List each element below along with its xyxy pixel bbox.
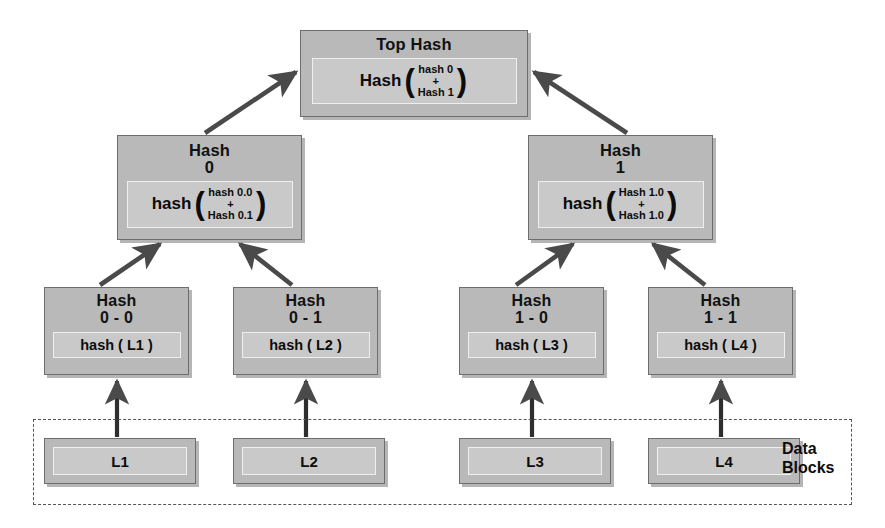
data-block-l3-label: L3	[468, 447, 602, 475]
node-hash-0-0-title: Hash 0 - 0	[97, 293, 137, 327]
node-hash-0-0[interactable]: Hash 0 - 0 hash ( L1 )	[44, 287, 189, 375]
node-hash-0-title: Hash 0	[189, 142, 230, 177]
expr-close-paren: )	[457, 69, 467, 94]
expr-close-paren: )	[667, 192, 677, 217]
edge-hash01-to-hash0	[240, 244, 292, 285]
expr-operand-b: Hash 1	[418, 87, 454, 98]
expr-open-paren: (	[194, 192, 204, 217]
node-hash-1-0-expression: hash ( L3 )	[468, 332, 596, 358]
node-hash-1-0-title: Hash 1 - 0	[512, 293, 552, 327]
expr-close-paren: )	[256, 192, 266, 217]
node-top-hash-expression: Hash ( hash 0 + Hash 1 )	[312, 58, 517, 104]
edge-hash1-to-top	[534, 72, 627, 133]
node-top-hash-title: Top Hash	[376, 36, 452, 53]
node-hash-0-1-expression: hash ( L2 )	[242, 332, 370, 358]
data-block-l1[interactable]: L1	[44, 438, 196, 484]
expr-function: Hash	[360, 71, 402, 91]
expr-function: hash	[563, 194, 603, 214]
data-block-l3[interactable]: L3	[459, 438, 611, 484]
node-top-hash[interactable]: Top Hash Hash ( hash 0 + Hash 1 )	[300, 30, 528, 117]
node-hash-0-0-expression: hash ( L1 )	[53, 332, 181, 358]
node-hash-1-expression: hash ( Hash 1.0 + Hash 1.0 )	[538, 181, 704, 228]
data-block-l4[interactable]: L4	[648, 438, 800, 484]
node-hash-1[interactable]: Hash 1 hash ( Hash 1.0 + Hash 1.0 )	[528, 135, 713, 240]
data-block-l2-label: L2	[242, 447, 376, 475]
node-hash-0-expression: hash ( hash 0.0 + Hash 0.1 )	[127, 181, 293, 228]
expr-open-paren: (	[605, 192, 615, 217]
node-hash-1-1[interactable]: Hash 1 - 1 hash ( L4 )	[648, 287, 793, 375]
node-hash-0-1-title: Hash 0 - 1	[286, 293, 326, 327]
node-hash-1-title: Hash 1	[600, 142, 641, 177]
data-blocks-group-label: Data Blocks	[782, 440, 848, 478]
expr-operand-b: Hash 1.0	[619, 210, 664, 221]
edge-hash0-to-top	[205, 72, 296, 133]
edge-hash10-to-hash1	[516, 244, 573, 285]
node-hash-1-0[interactable]: Hash 1 - 0 hash ( L3 )	[459, 287, 604, 375]
expr-operand-a: hash 0.0	[208, 187, 252, 198]
node-hash-0-1[interactable]: Hash 0 - 1 hash ( L2 )	[233, 287, 378, 375]
node-hash-1-1-expression: hash ( L4 )	[657, 332, 785, 358]
data-block-l1-label: L1	[53, 447, 187, 475]
expr-open-paren: (	[404, 69, 414, 94]
expr-function: hash	[152, 194, 192, 214]
expr-operand-b: Hash 0.1	[208, 210, 253, 221]
node-hash-1-1-title: Hash 1 - 1	[701, 293, 741, 327]
data-block-l4-label: L4	[657, 447, 791, 475]
edge-hash11-to-hash1	[653, 244, 705, 285]
data-block-l2[interactable]: L2	[233, 438, 385, 484]
edge-hash00-to-hash0	[100, 244, 160, 285]
merkle-tree-diagram: Top Hash Hash ( hash 0 + Hash 1 ) Hash 0…	[0, 0, 885, 528]
node-hash-0[interactable]: Hash 0 hash ( hash 0.0 + Hash 0.1 )	[117, 135, 302, 240]
expr-operand-a: Hash 1.0	[619, 187, 664, 198]
